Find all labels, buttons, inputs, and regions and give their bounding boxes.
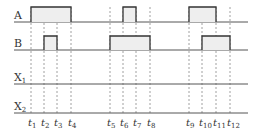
pulse-fill-a-3 bbox=[189, 7, 216, 22]
pulse-fill-b-1 bbox=[44, 36, 57, 50]
time-label-t1: t1 bbox=[28, 117, 37, 130]
signal-label-b: B bbox=[14, 37, 22, 50]
pulse-fill-a-2 bbox=[123, 7, 136, 22]
pulse-fill-a-1 bbox=[31, 7, 71, 22]
time-label-t6: t6 bbox=[120, 117, 129, 130]
timing-diagram: ABX1X2t1t2t3t4t5t6t7t8t9t10t11t12 bbox=[0, 0, 258, 138]
time-label-t5: t5 bbox=[107, 117, 116, 130]
time-label-t9: t9 bbox=[186, 117, 195, 130]
signal-label-x2: X2 bbox=[14, 100, 26, 114]
time-label-t10: t10 bbox=[199, 117, 212, 130]
time-label-t7: t7 bbox=[133, 117, 142, 130]
signal-label-x1: X1 bbox=[14, 71, 26, 85]
time-label-t4: t4 bbox=[68, 117, 77, 130]
signal-label-a: A bbox=[13, 9, 23, 22]
time-label-t11: t11 bbox=[213, 117, 226, 130]
time-label-t8: t8 bbox=[147, 117, 156, 130]
time-label-t2: t2 bbox=[41, 117, 50, 130]
pulse-fill-b-3 bbox=[202, 36, 230, 50]
time-label-t12: t12 bbox=[227, 117, 240, 130]
pulse-fill-b-2 bbox=[110, 36, 150, 50]
time-label-t3: t3 bbox=[54, 117, 63, 130]
